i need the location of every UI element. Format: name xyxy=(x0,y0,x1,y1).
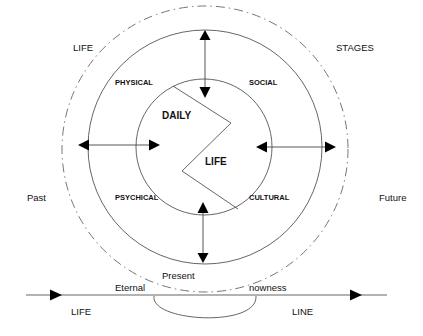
right-double-arrow xyxy=(256,142,336,153)
left-double-arrow xyxy=(78,140,160,151)
label-physical: PHYSICAL xyxy=(115,79,153,87)
label-life-top: LIFE xyxy=(73,43,93,53)
label-eternal: Eternal xyxy=(115,283,145,293)
label-life-center: LIFE xyxy=(205,157,227,167)
label-stages: STAGES xyxy=(336,43,374,53)
label-future: Future xyxy=(379,193,406,203)
nowness-arc xyxy=(154,296,256,318)
top-double-arrow xyxy=(200,30,211,98)
label-cultural: CULTURAL xyxy=(249,194,289,202)
label-present: Present xyxy=(162,271,195,281)
label-nowness: nowness xyxy=(249,283,287,293)
label-life-bottom: LIFE xyxy=(71,307,91,317)
label-line: LINE xyxy=(292,307,313,317)
label-past: Past xyxy=(27,193,46,203)
label-psychical: PSYCHICAL xyxy=(115,194,158,202)
bottom-double-arrow xyxy=(198,202,209,263)
life-line-arrow xyxy=(26,290,387,301)
label-social: SOCIAL xyxy=(249,79,277,87)
daily-life-zigzag xyxy=(173,86,238,209)
label-daily: DAILY xyxy=(162,111,191,121)
